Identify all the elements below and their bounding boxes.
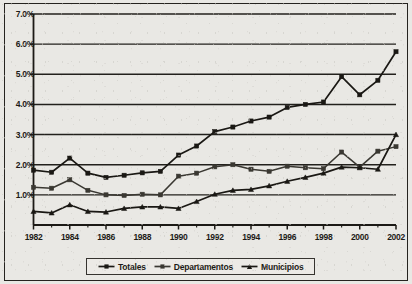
legend-swatch-triangle-icon bbox=[241, 262, 258, 271]
data-point bbox=[340, 75, 344, 79]
data-point bbox=[176, 174, 180, 178]
data-point bbox=[140, 192, 144, 196]
data-point bbox=[321, 167, 325, 171]
x-axis-label: 1986 bbox=[89, 232, 123, 242]
y-axis-label: 3.0% bbox=[0, 130, 34, 140]
series-totales bbox=[31, 50, 398, 180]
data-point bbox=[68, 156, 72, 160]
y-axis-label: 6.0% bbox=[0, 39, 34, 49]
legend-item-municipios[interactable]: Municipios bbox=[237, 262, 307, 272]
data-point bbox=[321, 100, 325, 104]
legend-label: Departamentos bbox=[174, 262, 233, 272]
data-point bbox=[213, 165, 217, 169]
legend-item-totales[interactable]: Totales bbox=[94, 262, 150, 272]
data-point bbox=[285, 164, 289, 168]
data-point bbox=[285, 105, 289, 109]
data-point bbox=[358, 93, 362, 97]
data-point bbox=[176, 153, 180, 157]
data-point bbox=[303, 166, 307, 170]
data-point bbox=[213, 129, 217, 133]
data-point bbox=[68, 178, 72, 182]
data-point bbox=[249, 119, 253, 123]
data-point bbox=[267, 169, 271, 173]
x-axis-label: 1988 bbox=[125, 232, 159, 242]
data-point bbox=[394, 145, 398, 149]
x-axis-label: 1990 bbox=[162, 232, 196, 242]
data-point bbox=[158, 193, 162, 197]
data-point bbox=[394, 50, 398, 54]
data-point bbox=[195, 171, 199, 175]
data-point bbox=[195, 144, 199, 148]
data-point bbox=[50, 170, 54, 174]
legend-swatch-square-icon bbox=[154, 262, 171, 271]
x-axis-label: 1992 bbox=[198, 232, 232, 242]
x-axis-label: 2002 bbox=[379, 232, 412, 242]
data-point bbox=[122, 193, 126, 197]
data-point bbox=[140, 171, 144, 175]
x-axis-label: 1998 bbox=[307, 232, 341, 242]
y-axis-label: 4.0% bbox=[0, 99, 34, 109]
legend-label: Municipios bbox=[261, 262, 303, 272]
data-point bbox=[158, 169, 162, 173]
series-line bbox=[34, 52, 397, 178]
data-point bbox=[86, 171, 90, 175]
data-point bbox=[104, 193, 108, 197]
data-point bbox=[376, 78, 380, 82]
legend-label: Totales bbox=[118, 262, 146, 272]
y-axis-label: 7.0% bbox=[0, 9, 34, 19]
data-point bbox=[376, 149, 380, 153]
data-point bbox=[50, 186, 54, 190]
data-point bbox=[267, 115, 271, 119]
data-point bbox=[303, 102, 307, 106]
chart-legend: TotalesDepartamentosMunicipios bbox=[86, 258, 315, 275]
x-axis-label: 2000 bbox=[343, 232, 377, 242]
data-point bbox=[340, 150, 344, 154]
data-point bbox=[231, 163, 235, 167]
data-point bbox=[86, 188, 90, 192]
data-point bbox=[104, 175, 108, 179]
data-point bbox=[249, 167, 253, 171]
y-axis-label: 5.0% bbox=[0, 69, 34, 79]
legend-item-departamentos[interactable]: Departamentos bbox=[150, 262, 237, 272]
x-axis-label: 1996 bbox=[270, 232, 304, 242]
data-point bbox=[122, 173, 126, 177]
x-axis-label: 1982 bbox=[17, 232, 51, 242]
x-axis-label: 1994 bbox=[234, 232, 268, 242]
y-axis-label: 2.0% bbox=[0, 160, 34, 170]
x-axis-label: 1984 bbox=[53, 232, 87, 242]
data-point bbox=[31, 185, 35, 189]
y-axis-label: 1.0% bbox=[0, 190, 34, 200]
data-point bbox=[231, 125, 235, 129]
legend-swatch-square-icon bbox=[98, 262, 115, 271]
